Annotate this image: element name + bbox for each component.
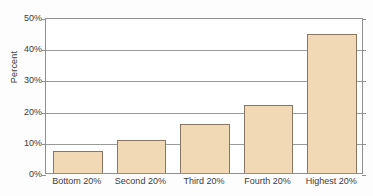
x-axis-tick-label: Bottom 20% xyxy=(45,176,109,186)
axis-tick-mark xyxy=(362,19,366,20)
y-axis-tick-label: 50% xyxy=(12,13,42,23)
bar xyxy=(307,34,357,173)
y-axis-tick-label: 30% xyxy=(12,75,42,85)
axis-tick-mark xyxy=(362,144,366,145)
x-axis-tick-labels: Bottom 20%Second 20%Third 20%Fourth 20%H… xyxy=(45,176,363,194)
axis-tick-mark xyxy=(362,50,366,51)
y-axis-tick-label: 20% xyxy=(12,107,42,117)
bar-chart: Percent 0%10%20%30%40%50% Bottom 20%Seco… xyxy=(0,0,373,196)
plot-area xyxy=(45,18,363,174)
axis-tick-mark xyxy=(362,81,366,82)
x-axis-tick-label: Fourth 20% xyxy=(236,176,300,186)
bar xyxy=(53,151,103,173)
axis-tick-mark xyxy=(362,113,366,114)
y-axis-tick-label: 0% xyxy=(12,169,42,179)
bars-group xyxy=(46,19,362,173)
y-axis-tick-label: 40% xyxy=(12,44,42,54)
bar xyxy=(117,140,167,173)
y-axis-tick-labels: 0%10%20%30%40%50% xyxy=(12,18,42,174)
bar xyxy=(244,105,294,173)
y-axis-tick-label: 10% xyxy=(12,138,42,148)
x-axis-tick-label: Second 20% xyxy=(109,176,173,186)
x-axis-tick-label: Highest 20% xyxy=(299,176,363,186)
x-axis-tick-label: Third 20% xyxy=(172,176,236,186)
bar xyxy=(180,124,230,173)
